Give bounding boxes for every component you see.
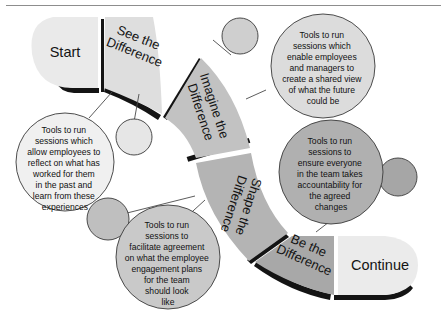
segment-continue-label: Continue	[351, 257, 409, 273]
see-shadow	[101, 19, 104, 92]
callout-see-text: Tools to run sessions which allow employ…	[27, 125, 102, 212]
callout-see[interactable]: Tools to run sessions which allow employ…	[16, 113, 114, 212]
connector-line-see	[89, 92, 112, 118]
process-curve-diagram: Start See the Difference Imagine the Dif…	[0, 0, 447, 321]
segment-start-label: Start	[50, 44, 81, 60]
callout-shape[interactable]: Tools to run sessions to facilitate agre…	[116, 205, 220, 309]
callout-imagine-text: Tools to run sessions which enable emplo…	[282, 30, 364, 106]
connector-dot-see[interactable]	[116, 119, 152, 155]
callout-imagine[interactable]: Tools to run sessions which enable emplo…	[271, 14, 375, 118]
connector-dot-be[interactable]	[379, 158, 417, 196]
callout-be[interactable]: Tools to run sessions to ensure everyone…	[279, 120, 383, 224]
diagram-canvas: Start See the Difference Imagine the Dif…	[0, 0, 447, 321]
connector-line-imagine	[246, 90, 266, 99]
connector-dot-imagine[interactable]	[222, 18, 258, 54]
